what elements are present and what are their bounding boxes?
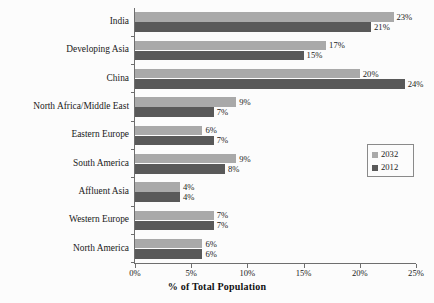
bar-2012: 7% [135,107,214,117]
bar-value-label: 7% [217,108,228,117]
bar-value-label: 7% [217,221,228,230]
bar-value-label: 6% [205,239,216,248]
bar-value-label: 24% [408,80,424,89]
category-label: Developing Asia [66,46,129,55]
bar-value-label: 20% [363,69,379,78]
chart-category-row: Developing Asia17%15% [135,36,416,64]
x-axis-tick-label: 10% [240,269,256,278]
chart-category-row: China20%24% [135,65,416,93]
bar-value-label: 15% [307,51,323,60]
category-label: Western Europe [69,216,129,225]
chart-category-row: North America6%6% [135,235,416,263]
bar-value-label: 7% [217,211,228,220]
bar-2012: 4% [135,192,180,202]
chart-legend: 20322012 [367,144,414,177]
x-axis-title: % of Total Population [0,281,434,292]
category-label: North Africa/Middle East [33,102,129,111]
bar-value-label: 17% [329,41,345,50]
legend-swatch-icon [372,165,378,171]
bar-2012: 7% [135,221,214,231]
bar-2012: 24% [135,79,405,89]
bar-value-label: 21% [374,23,390,32]
x-axis-tick-label: 25% [408,269,424,278]
category-label: North America [73,244,129,253]
category-label: South America [73,159,129,168]
chart-category-row: North Africa/Middle East9%7% [135,93,416,121]
bar-value-label: 8% [228,165,239,174]
bar-2032: 23% [135,12,394,22]
bar-2012: 6% [135,249,202,259]
bar-2012: 21% [135,22,371,32]
x-axis-tick-label: 20% [352,269,368,278]
legend-swatch-icon [372,152,378,158]
x-axis-tick-label: 0% [129,269,140,278]
bar-2032: 9% [135,97,236,107]
bar-2012: 7% [135,136,214,146]
bar-2032: 17% [135,41,326,51]
legend-label: 2012 [381,163,398,172]
legend-label: 2032 [381,150,398,159]
bar-chart: India23%21%Developing Asia17%15%China20%… [0,0,434,303]
bar-2032: 4% [135,182,180,192]
bar-2012: 8% [135,164,225,174]
bar-2032: 20% [135,69,360,79]
x-axis-tick-label: 15% [296,269,312,278]
chart-category-row: India23%21% [135,8,416,36]
bar-value-label: 9% [239,154,250,163]
chart-category-row: Western Europe7%7% [135,206,416,234]
category-label: China [107,74,129,83]
category-label: Eastern Europe [71,131,129,140]
bar-value-label: 4% [183,183,194,192]
bar-value-label: 7% [217,136,228,145]
bar-2032: 6% [135,126,202,136]
bar-2032: 9% [135,154,236,164]
bar-value-label: 9% [239,98,250,107]
legend-item: 2012 [372,161,413,174]
bar-value-label: 6% [205,126,216,135]
legend-item: 2032 [372,148,413,161]
bar-value-label: 23% [397,13,413,22]
bar-2032: 7% [135,211,214,221]
bar-value-label: 6% [205,250,216,259]
plot-area: India23%21%Developing Asia17%15%China20%… [135,8,416,263]
x-axis-tick-label: 5% [185,269,196,278]
bar-2012: 15% [135,51,304,61]
bar-2032: 6% [135,239,202,249]
category-label: India [110,17,129,26]
category-label: Affluent Asia [78,187,129,196]
chart-category-row: Affluent Asia4%4% [135,178,416,206]
bar-value-label: 4% [183,193,194,202]
